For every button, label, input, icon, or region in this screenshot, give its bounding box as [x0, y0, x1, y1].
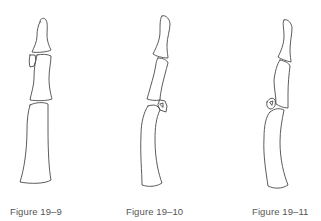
figure-19-11: Figure 19–11: [220, 0, 321, 221]
figure-caption: Figure 19–9: [10, 206, 62, 217]
figure-19-9: Figure 19–9: [0, 0, 110, 221]
figure-caption: Figure 19–11: [252, 206, 308, 217]
finger-bone-diagram-straight: [0, 0, 110, 200]
figure-19-10: Figure 19–10: [110, 0, 220, 221]
figure-caption: Figure 19–10: [126, 206, 183, 217]
finger-bone-diagram-volar-plate-fracture: [110, 0, 220, 200]
finger-bone-diagram-displaced-fracture: [220, 0, 321, 200]
